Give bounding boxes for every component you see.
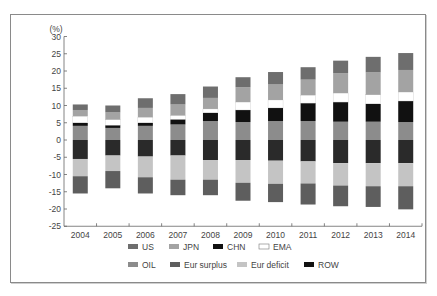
segment-eur-surplus (333, 186, 348, 207)
segment-eur-deficit (398, 163, 413, 186)
segment-us (203, 87, 218, 98)
bar-2014 (398, 53, 413, 209)
segment-us (398, 53, 413, 70)
segment-oil (398, 122, 413, 140)
segment-ema (333, 93, 348, 102)
y-tick-label: 20 (52, 66, 62, 76)
x-tick-label: 2005 (103, 230, 122, 240)
bar-2013 (366, 57, 381, 207)
segment-eur-deficit (236, 160, 251, 183)
x-tick-label: 2014 (396, 230, 415, 240)
legend-label: EMA (273, 242, 292, 252)
x-tick-label: 2011 (299, 230, 318, 240)
segment-eur-surplus (138, 177, 153, 193)
segment-jpn (138, 108, 153, 117)
segment-chn (268, 108, 283, 121)
segment-us (301, 67, 316, 79)
segment-oil (203, 121, 218, 140)
segment-us (105, 106, 120, 113)
legend-label: JPN (183, 242, 199, 252)
y-tick-label: -15 (49, 187, 62, 197)
legend-swatch (128, 262, 138, 267)
segment-oil (301, 121, 316, 140)
segment-ema (105, 120, 120, 126)
segment-chn (73, 123, 88, 126)
segment-eur-deficit (366, 163, 381, 186)
segment-row (301, 140, 316, 161)
segment-oil (268, 121, 283, 140)
segment-oil (138, 126, 153, 140)
segment-ema (366, 95, 381, 104)
x-tick-label: 2006 (136, 230, 155, 240)
segment-row (268, 140, 283, 161)
stacked-bar-chart: 302520151050-5-10-15-20-25 2004200520062… (0, 0, 437, 296)
segment-row (138, 140, 153, 157)
segment-eur-surplus (203, 180, 218, 196)
legend-swatch (237, 262, 247, 267)
segment-row (398, 140, 413, 163)
segment-jpn (366, 72, 381, 94)
segment-oil (333, 122, 348, 140)
segment-row (170, 140, 185, 156)
segment-eur-surplus (73, 176, 88, 193)
segment-eur-deficit (170, 156, 185, 180)
y-tick-label: 10 (52, 101, 62, 111)
segment-row (105, 140, 120, 156)
x-tick-label: 2007 (168, 230, 187, 240)
bar-2005 (105, 106, 120, 189)
segment-us (268, 72, 283, 84)
bar-2010 (268, 72, 283, 202)
bar-2008 (203, 87, 218, 196)
segment-chn (170, 119, 185, 124)
legend-swatch (259, 244, 269, 249)
bar-2004 (73, 104, 88, 193)
y-tick-label: -20 (49, 204, 62, 214)
segment-eur-deficit (73, 159, 88, 176)
segment-chn (333, 102, 348, 122)
segment-jpn (73, 110, 88, 116)
legend-swatch (128, 244, 138, 249)
segment-eur-surplus (398, 186, 413, 209)
segment-eur-deficit (333, 163, 348, 185)
segment-eur-surplus (105, 171, 120, 188)
segment-eur-surplus (301, 183, 316, 204)
segment-eur-surplus (268, 184, 283, 202)
segment-jpn (301, 80, 316, 96)
segment-ema (203, 109, 218, 113)
segment-us (73, 104, 88, 110)
legend-label: US (142, 242, 154, 252)
bar-2006 (138, 98, 153, 193)
segment-chn (301, 103, 316, 121)
segment-eur-surplus (366, 186, 381, 207)
segment-eur-deficit (105, 156, 120, 172)
x-tick-label: 2008 (201, 230, 220, 240)
legend-label: OIL (142, 260, 156, 270)
segment-us (170, 94, 185, 104)
segment-oil (170, 124, 185, 140)
segment-eur-deficit (203, 160, 218, 180)
segment-row (366, 140, 381, 163)
segment-ema (73, 116, 88, 123)
segment-jpn (333, 73, 348, 93)
legend-label: CHN (227, 242, 245, 252)
y-tick-label: 15 (52, 83, 62, 93)
segment-row (236, 140, 251, 160)
segment-ema (301, 95, 316, 103)
segment-row (333, 140, 348, 163)
segment-chn (203, 113, 218, 121)
legend: USJPNCHNEMAOILEur surplusEur deficitROW (128, 242, 339, 270)
bars (73, 53, 413, 209)
segment-chn (366, 104, 381, 122)
legend-swatch (170, 262, 180, 267)
bar-2012 (333, 61, 348, 207)
segment-ema (268, 100, 283, 108)
y-tick-label: 5 (56, 118, 61, 128)
x-axis: 2004200520062007200820092010201120122013… (64, 223, 422, 240)
segment-us (236, 77, 251, 87)
legend-swatch (169, 244, 179, 249)
x-tick-label: 2013 (364, 230, 383, 240)
segment-oil (105, 128, 120, 140)
y-tick-label: 0 (56, 135, 61, 145)
segment-ema (236, 102, 251, 110)
segment-us (333, 61, 348, 73)
